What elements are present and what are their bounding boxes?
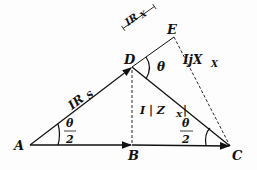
- svg-text:θ: θ: [66, 117, 74, 130]
- svg-text:θ: θ: [182, 117, 190, 130]
- label-half-theta-A: θ 2: [64, 117, 76, 146]
- label-half-theta-C: θ 2: [180, 117, 193, 146]
- point-label-C: C: [232, 148, 243, 163]
- angle-arc-A: [58, 124, 60, 145]
- label-IjXx: IjX: [182, 53, 203, 67]
- svg-text:2: 2: [65, 133, 74, 146]
- point-label-A: A: [12, 138, 24, 153]
- phasor-diagram: A B C D E IR S IR X IjX X I | Z X | θ θ …: [0, 0, 257, 170]
- label-IZx-end: |: [183, 104, 187, 117]
- angle-arc-D: [146, 57, 150, 79]
- point-label-E: E: [166, 22, 178, 37]
- line-BC: [132, 145, 229, 146]
- label-IZx: I | Z: [139, 104, 166, 117]
- svg-text:2: 2: [181, 133, 190, 146]
- svg-text:S: S: [84, 89, 96, 101]
- label-theta-D: θ: [157, 60, 165, 74]
- diagram-svg: A B C D E IR S IR X IjX X I | Z X | θ θ …: [0, 0, 257, 170]
- svg-text:IR: IR: [122, 11, 140, 28]
- point-label-B: B: [127, 148, 139, 163]
- line-DE: [132, 37, 174, 67]
- svg-text:IR: IR: [65, 92, 87, 113]
- label-IRs: IR S: [65, 85, 96, 114]
- point-label-D: D: [123, 52, 136, 67]
- angle-arc-C: [206, 128, 211, 146]
- label-IjXx-sub: X: [210, 59, 219, 69]
